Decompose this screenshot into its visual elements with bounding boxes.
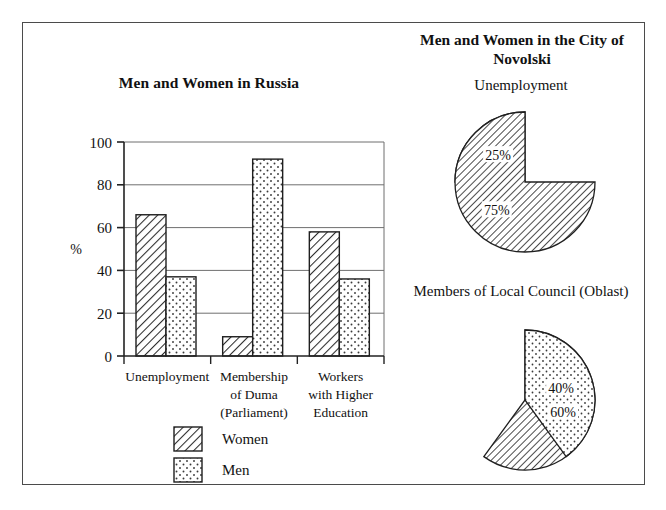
bar xyxy=(223,337,253,356)
pie-slice-label: 25% xyxy=(485,148,511,163)
x-category-label: Unemployment xyxy=(125,369,209,384)
legend-label: Men xyxy=(222,462,250,478)
bar-chart-legend: WomenMen xyxy=(174,427,269,482)
y-tick-label: 20 xyxy=(97,306,112,322)
y-axis-label: % xyxy=(70,242,82,257)
y-tick-label: 80 xyxy=(97,177,112,193)
pie-unemployment-caption: Unemployment xyxy=(398,76,644,95)
bar xyxy=(253,159,283,356)
y-axis-ticks: 020406080100 xyxy=(90,135,125,365)
y-tick-label: 0 xyxy=(105,349,113,365)
bar-chart-panel: Men and Women in Russia xyxy=(24,24,394,483)
bar xyxy=(339,279,369,356)
pie-charts-title: Men and Women in the City of Novolski xyxy=(402,30,642,68)
pie-slice-label: 60% xyxy=(550,405,576,420)
pie-unemployment-slices xyxy=(455,112,595,252)
pie-council-slices xyxy=(484,330,595,470)
pie-slice xyxy=(455,112,595,252)
pie-slice-label: 40% xyxy=(548,381,574,396)
pie-charts-panel: Men and Women in the City of Novolski Un… xyxy=(398,24,644,483)
bar-chart-svg: 020406080100 % UnemploymentMembershipof … xyxy=(24,102,394,483)
x-category-label: Membership xyxy=(220,369,288,384)
pie-council-svg: 60%40% xyxy=(450,324,600,476)
bar-chart-title: Men and Women in Russia xyxy=(24,74,394,92)
bar xyxy=(166,277,196,356)
pie-slice-label: 75% xyxy=(484,203,510,218)
x-axis-category-labels: UnemploymentMembershipof Duma(Parliament… xyxy=(125,369,373,420)
legend-swatch xyxy=(174,427,202,451)
y-tick-label: 60 xyxy=(97,220,112,236)
bar xyxy=(309,232,339,356)
legend-swatch xyxy=(174,458,202,482)
x-category-label: Education xyxy=(313,405,368,420)
pie-council-caption: Members of Local Council (Oblast) xyxy=(398,282,644,301)
y-tick-label: 100 xyxy=(90,135,113,151)
x-category-label: (Parliament) xyxy=(220,405,287,420)
x-category-label: of Duma xyxy=(230,387,278,402)
bar-series xyxy=(136,159,369,356)
x-category-label: Workers xyxy=(318,369,363,384)
pie-unemployment-svg: 25%75% xyxy=(450,106,600,258)
y-tick-label: 40 xyxy=(97,263,112,279)
legend-label: Women xyxy=(222,431,269,447)
figure-page: Men and Women in Russia xyxy=(0,0,666,510)
x-axis-ticks xyxy=(124,356,384,364)
x-category-label: with Higher xyxy=(308,387,373,402)
bar xyxy=(136,215,166,356)
